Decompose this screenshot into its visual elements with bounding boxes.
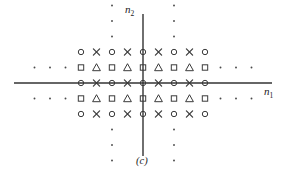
marker-dot [173,20,175,22]
y-axis-label-subscript: 2 [131,9,135,18]
marker-square [78,65,83,70]
marker-dot [34,67,36,69]
marker-dot [173,160,175,162]
marker-square [171,65,176,70]
marker-dot [111,20,113,22]
marker-dot [34,98,36,100]
lattice-plot-canvas [0,0,286,175]
lattice-sampling-figure: n2 n1 (c) [0,0,286,175]
marker-triangle [93,95,101,102]
marker-cross [124,49,130,55]
marker-square [171,96,176,101]
marker-square [78,96,83,101]
marker-cross [186,111,192,117]
marker-square [109,96,114,101]
marker-triangle [93,64,101,71]
marker-dot [173,5,175,7]
marker-circle [202,49,207,54]
marker-dot [111,160,113,162]
x-axis-label-subscript: 1 [270,91,274,100]
marker-cross [124,111,130,117]
marker-dot [173,36,175,38]
marker-dot [220,67,222,69]
marker-cross [93,111,99,117]
marker-dot [65,67,67,69]
marker-dot [251,67,253,69]
marker-dot [111,129,113,131]
y-axis-label: n2 [125,4,134,18]
marker-triangle [155,95,163,102]
marker-dot [111,144,113,146]
marker-triangle [186,95,194,102]
marker-circle [171,49,176,54]
marker-dot [111,36,113,38]
marker-dot [235,67,237,69]
x-axis-label: n1 [264,86,273,100]
marker-circle [109,49,114,54]
marker-cross [186,49,192,55]
marker-dot [235,98,237,100]
marker-triangle [124,64,132,71]
marker-dot [173,129,175,131]
marker-dot [65,98,67,100]
marker-square [109,65,114,70]
marker-dot [49,67,51,69]
marker-square [202,96,207,101]
marker-cross [155,111,161,117]
marker-dot [220,98,222,100]
marker-cross [93,49,99,55]
marker-dot [173,144,175,146]
marker-triangle [186,64,194,71]
marker-circle [202,111,207,116]
marker-circle [78,49,83,54]
marker-circle [171,111,176,116]
marker-circle [109,111,114,116]
marker-dot [49,98,51,100]
marker-circle [78,111,83,116]
marker-dot [251,98,253,100]
marker-cross [155,49,161,55]
panel-label: (c) [136,156,148,167]
marker-dot [111,5,113,7]
marker-triangle [155,64,163,71]
marker-square [202,65,207,70]
marker-triangle [124,95,132,102]
axes-group [14,14,272,156]
